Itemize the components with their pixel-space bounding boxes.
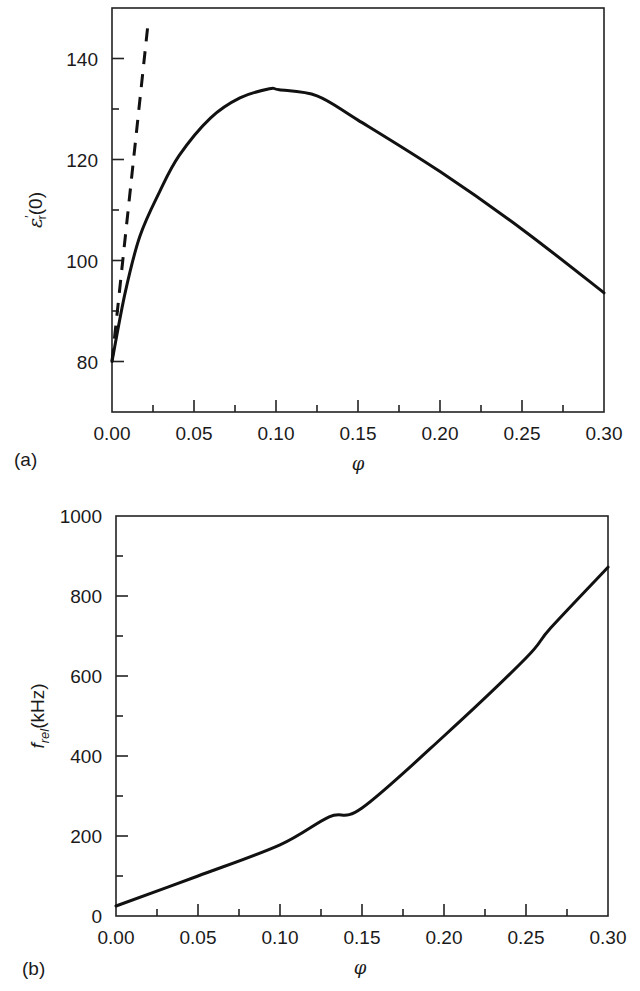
x-tick-label: 0.25 — [508, 927, 545, 948]
y-tick-label: 100 — [66, 251, 98, 272]
x-tick-label: 0.05 — [176, 423, 213, 444]
x-tick-label: 0.30 — [586, 423, 623, 444]
x-tick-label: 0.10 — [258, 423, 295, 444]
chart-b-y-ticks: 02004006008001000 — [60, 506, 128, 927]
y-tick-label: 800 — [70, 586, 102, 607]
panel-label-a: (a) — [14, 449, 37, 470]
chart-b-x-axis-label: φ — [354, 957, 367, 978]
chart-b-curves — [116, 567, 608, 906]
x-tick-label: 0.20 — [426, 927, 463, 948]
x-tick-label: 0.15 — [340, 423, 377, 444]
y-tick-label: 0 — [91, 906, 102, 927]
chart-a: 0.000.050.100.150.200.250.30 80100120140… — [14, 8, 622, 474]
chart-a-curves — [112, 23, 604, 361]
chart-a-x-axis-label: φ — [352, 453, 365, 474]
x-tick-label: 0.15 — [344, 927, 381, 948]
y-tick-label: 400 — [70, 746, 102, 767]
x-tick-label: 0.30 — [590, 927, 627, 948]
y-tick-label: 200 — [70, 826, 102, 847]
x-tick-label: 0.25 — [504, 423, 541, 444]
x-tick-label: 0.10 — [262, 927, 299, 948]
data-curve — [112, 88, 604, 361]
y-tick-label: 140 — [66, 49, 98, 70]
y-tick-label: 80 — [77, 352, 98, 373]
chart-a-frame — [112, 8, 604, 412]
panel-label-b: (b) — [22, 958, 45, 979]
x-tick-label: 0.20 — [422, 423, 459, 444]
chart-a-x-ticks: 0.000.050.100.150.200.250.30 — [94, 400, 623, 444]
figure: 0.000.050.100.150.200.250.30 80100120140… — [0, 0, 640, 991]
chart-a-y-axis-label: ε′r(0) — [23, 192, 49, 228]
y-tick-label: 600 — [70, 666, 102, 687]
y-tick-label: 1000 — [60, 506, 102, 527]
chart-b-x-ticks: 0.000.050.100.150.200.250.30 — [98, 904, 627, 948]
chart-b: 0.000.050.100.150.200.250.30 02004006008… — [22, 506, 626, 979]
chart-b-frame — [116, 516, 608, 916]
data-curve — [116, 567, 608, 906]
x-tick-label: 0.00 — [98, 927, 135, 948]
x-tick-label: 0.05 — [180, 927, 217, 948]
y-tick-label: 120 — [66, 150, 98, 171]
x-tick-label: 0.00 — [94, 423, 131, 444]
chart-b-y-axis-label: frel(kHz) — [27, 683, 52, 748]
dashed-line — [112, 23, 148, 361]
chart-a-y-ticks: 80100120140 — [66, 49, 124, 373]
